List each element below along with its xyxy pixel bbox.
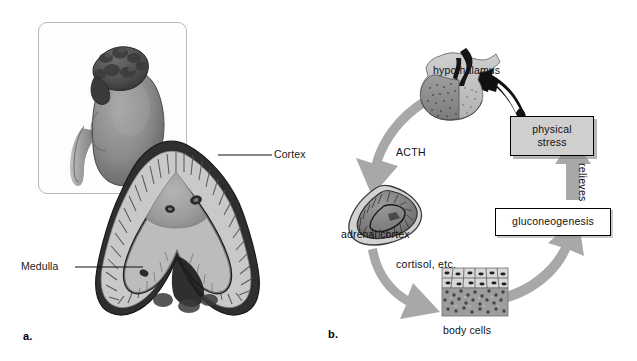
callout-label-medulla: Medulla [21, 260, 58, 272]
arrow-label-cortisol: cortisol, etc. [396, 258, 456, 270]
physical-stress-line2: stress [537, 136, 566, 148]
panel-b-artwork [320, 0, 637, 361]
node-label-body-cells: body cells [443, 324, 491, 336]
gluconeogenesis-label: gluconeogenesis [512, 215, 594, 228]
body-cells-illustration [442, 268, 508, 316]
physical-stress-label: physical stress [532, 123, 572, 149]
panel-label-b: b. [328, 328, 338, 340]
node-label-hypothalamus: hypothalamus [433, 64, 500, 76]
panel-a-adrenal-anatomy: Cortex Medulla a. [0, 0, 320, 361]
physical-stress-box[interactable]: physical stress [510, 116, 594, 156]
callout-label-cortex: Cortex [274, 148, 306, 160]
panel-b-stress-cycle: physical stress gluconeogenesis hypothal… [320, 0, 637, 361]
node-label-adrenal-cortex: adrenal cortex [341, 228, 410, 240]
gluconeogenesis-box[interactable]: gluconeogenesis [495, 208, 611, 236]
physical-stress-line1: physical [532, 123, 572, 135]
arrow-label-relieves: relieves [577, 163, 589, 202]
arrow-label-acth: ACTH [396, 146, 426, 158]
panel-a-artwork [0, 0, 320, 361]
figure-adrenal-gland: Cortex Medulla a. [0, 0, 637, 361]
panel-label-a: a. [23, 330, 33, 342]
